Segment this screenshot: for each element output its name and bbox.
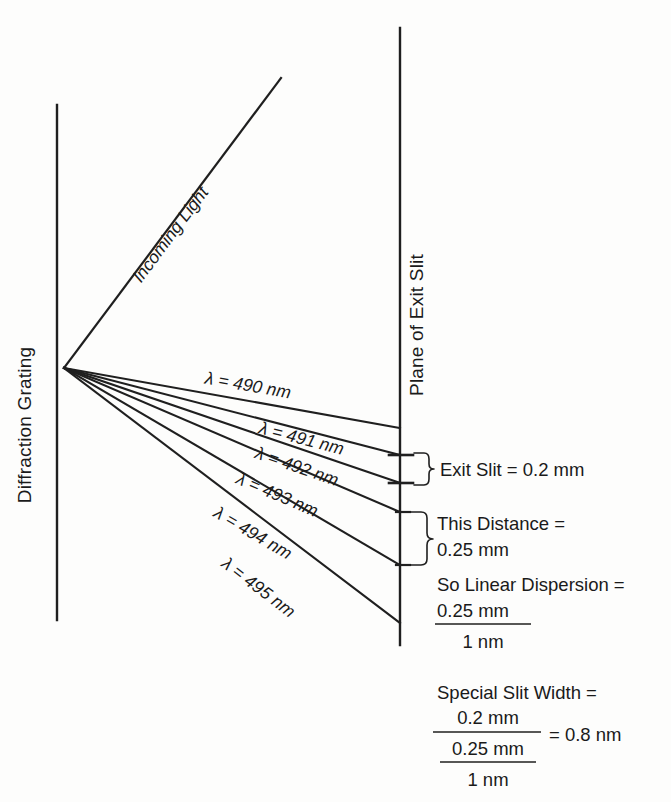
linear-dispersion-heading: So Linear Dispersion = [437,574,625,595]
special-slit-heading: Special Slit Width = [437,682,597,703]
special-slit-sub-denominator: 1 nm [467,769,508,790]
diagram-canvas: Diffraction Grating Plane of Exit Slit I… [0,0,671,802]
this-distance-brace [411,512,433,565]
exit-slit-plane-label: Plane of Exit Slit [406,254,427,396]
incoming-light-label: Incoming Light [128,182,213,286]
ray-label-490: λ = 490 nm [203,367,293,402]
special-slit-result: = 0.8 nm [549,724,622,745]
this-distance-line1: This Distance = [437,513,565,534]
special-slit-numerator: 0.2 mm [457,707,519,728]
linear-dispersion-denominator: 1 nm [462,631,503,652]
linear-dispersion-numerator: 0.25 mm [437,600,509,621]
exit-slit-brace [414,453,434,485]
ray-label-495: λ = 495 nm [217,552,299,621]
special-slit-sub-numerator: 0.25 mm [452,738,524,759]
diffraction-grating-label: Diffraction Grating [14,347,35,504]
this-distance-line2: 0.25 mm [437,539,509,560]
exit-slit-annotation: Exit Slit = 0.2 mm [440,459,584,480]
ray-495 [64,368,400,623]
optics-diagram: Diffraction Grating Plane of Exit Slit I… [0,0,671,802]
